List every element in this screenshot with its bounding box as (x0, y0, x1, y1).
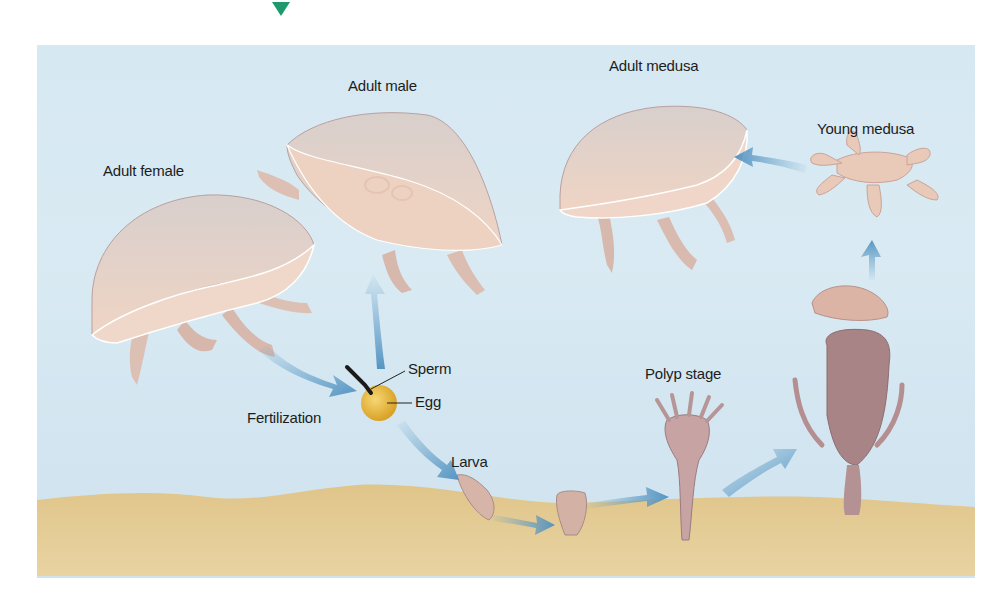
label-adult-female: Adult female (103, 162, 184, 179)
label-young-medusa: Young medusa (817, 120, 914, 137)
sea-floor (37, 485, 975, 576)
label-larva: Larva (451, 453, 488, 470)
young-medusa (811, 131, 938, 217)
label-fertilization: Fertilization (247, 409, 321, 426)
strobila-polyp (795, 329, 902, 515)
label-egg: Egg (415, 393, 441, 410)
label-adult-medusa: Adult medusa (609, 57, 698, 74)
label-sperm: Sperm (408, 360, 451, 377)
marker-triangle-icon (272, 2, 290, 16)
label-polyp-stage: Polyp stage (645, 365, 721, 382)
jellyfish-life-cycle-diagram: Adult female Adult male Adult medusa You… (37, 45, 975, 578)
ephyra (812, 286, 888, 321)
label-adult-male: Adult male (348, 77, 417, 94)
adult-female-jellyfish (92, 195, 314, 385)
adult-medusa (560, 106, 747, 273)
